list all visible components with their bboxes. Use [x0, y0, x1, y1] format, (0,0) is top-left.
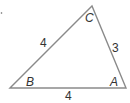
triangle-diagram: C B A 4 3 4 [0, 0, 130, 103]
vertex-label-a: A [109, 75, 118, 89]
side-label-bc: 4 [40, 36, 47, 50]
side-label-ba: 4 [65, 89, 72, 103]
vertex-label-c: C [85, 11, 94, 25]
side-label-ca: 3 [112, 41, 119, 55]
vertex-label-b: B [26, 75, 34, 89]
dot-mark [1, 12, 3, 14]
